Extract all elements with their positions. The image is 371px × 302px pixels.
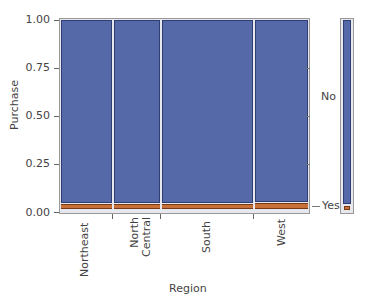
y-tick-label-0.50: 0.50 bbox=[10, 109, 50, 122]
column-north-central bbox=[113, 20, 161, 212]
segment-northeast-no bbox=[61, 20, 112, 203]
segment-south-yes bbox=[162, 204, 253, 209]
x-label-south: South bbox=[201, 221, 213, 253]
segment-west-no bbox=[255, 20, 308, 202]
right-tick bbox=[306, 116, 310, 117]
right-tick bbox=[306, 164, 310, 165]
marginal-yes bbox=[344, 206, 350, 210]
y-tick-label-0.25: 0.25 bbox=[10, 157, 50, 170]
marginal-no bbox=[343, 20, 351, 204]
x-tick bbox=[253, 214, 254, 219]
mosaic-plot-area bbox=[59, 18, 310, 214]
x-label-north-central: North Central bbox=[129, 217, 153, 257]
x-tick bbox=[160, 214, 161, 219]
y-tick-label-0.00: 0.00 bbox=[10, 206, 50, 219]
x-tick bbox=[112, 214, 113, 219]
y-tick-label-0.75: 0.75 bbox=[10, 61, 50, 74]
segment-west-yes bbox=[255, 203, 308, 209]
segment-north-central-yes bbox=[114, 204, 160, 209]
right-tick bbox=[306, 68, 310, 69]
column-west bbox=[254, 20, 309, 212]
column-northeast bbox=[60, 20, 113, 212]
segment-north-central-no bbox=[114, 20, 160, 203]
y-tick-label-1.00: 1.00 bbox=[10, 13, 50, 26]
x-label-west: West bbox=[276, 219, 288, 246]
y-axis-title: Purchase bbox=[8, 80, 21, 130]
legend-label-yes: Yes bbox=[322, 199, 340, 212]
marginal-legend-bar bbox=[340, 18, 354, 214]
legend-yes-tick bbox=[312, 206, 320, 207]
segment-south-no bbox=[162, 20, 253, 203]
legend-label-no: No bbox=[321, 90, 336, 103]
x-label-northeast: Northeast bbox=[79, 223, 91, 277]
x-axis-title: Region bbox=[169, 282, 207, 295]
segment-northeast-yes bbox=[61, 204, 112, 209]
column-south bbox=[161, 20, 254, 212]
